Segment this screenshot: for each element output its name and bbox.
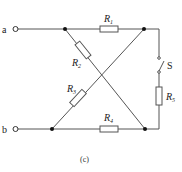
r2-label: R2	[71, 57, 81, 69]
r3-label: R3	[66, 83, 76, 95]
node-top-right	[142, 27, 146, 31]
switch-label: S	[167, 60, 173, 71]
circuit-diagram: a b R1 R2 R3 R4 R5 S (c)	[0, 0, 182, 172]
figure-caption: (c)	[80, 155, 89, 164]
resistor-r4	[100, 126, 118, 132]
r5-label: R5	[165, 91, 175, 103]
resistor-r5	[156, 87, 162, 105]
wire-diagonal-r3	[52, 29, 144, 129]
terminal-b	[13, 127, 18, 132]
node-bottom-left	[50, 127, 54, 131]
r1-label: R1	[103, 13, 113, 25]
terminal-a	[13, 27, 18, 32]
resistor-r1	[100, 26, 118, 32]
node-bottom-right	[143, 127, 147, 131]
terminal-b-label: b	[2, 124, 7, 135]
terminal-a-label: a	[2, 24, 7, 35]
switch-s	[158, 57, 164, 74]
node-top-left	[63, 27, 67, 31]
r4-label: R4	[103, 112, 113, 124]
